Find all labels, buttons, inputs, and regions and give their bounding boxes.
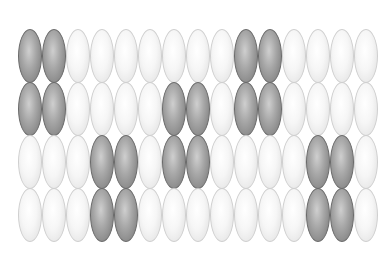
bead-cell xyxy=(306,188,330,242)
bead-cell xyxy=(330,135,354,189)
bead-cell xyxy=(42,82,66,136)
bead-cell xyxy=(234,135,258,189)
bead-cell xyxy=(210,188,234,242)
bead-cell xyxy=(210,135,234,189)
bead-cell xyxy=(114,188,138,242)
bead-cell xyxy=(354,135,378,189)
bead-cell xyxy=(90,188,114,242)
bead-cell xyxy=(258,82,282,136)
bead-cell xyxy=(90,82,114,136)
bead-cell xyxy=(210,29,234,83)
bead-cell xyxy=(186,135,210,189)
bead-cell xyxy=(90,29,114,83)
bead-cell xyxy=(162,135,186,189)
bead-cell xyxy=(282,29,306,83)
bead-cell xyxy=(306,82,330,136)
bead-cell xyxy=(186,188,210,242)
bead-cell xyxy=(42,188,66,242)
bead-cell xyxy=(18,29,42,83)
bead-pattern-grid xyxy=(18,29,378,243)
bead-cell xyxy=(114,82,138,136)
bead-cell xyxy=(42,29,66,83)
bead-cell xyxy=(138,188,162,242)
bead-cell xyxy=(186,82,210,136)
bead-cell xyxy=(306,29,330,83)
bead-cell xyxy=(138,82,162,136)
bead-cell xyxy=(330,29,354,83)
bead-cell xyxy=(66,29,90,83)
bead-cell xyxy=(354,82,378,136)
bead-cell xyxy=(258,188,282,242)
bead-cell xyxy=(258,29,282,83)
bead-cell xyxy=(282,188,306,242)
bead-cell xyxy=(258,135,282,189)
bead-cell xyxy=(138,29,162,83)
bead-cell xyxy=(90,135,114,189)
bead-cell xyxy=(234,82,258,136)
bead-cell xyxy=(66,82,90,136)
bead-cell xyxy=(210,82,234,136)
bead-cell xyxy=(18,82,42,136)
bead-cell xyxy=(354,29,378,83)
bead-cell xyxy=(306,135,330,189)
bead-cell xyxy=(282,82,306,136)
bead-cell xyxy=(162,82,186,136)
bead-cell xyxy=(138,135,162,189)
bead-cell xyxy=(234,188,258,242)
bead-cell xyxy=(162,29,186,83)
bead-cell xyxy=(18,135,42,189)
bead-cell xyxy=(282,135,306,189)
bead-cell xyxy=(162,188,186,242)
bead-cell xyxy=(42,135,66,189)
bead-cell xyxy=(186,29,210,83)
bead-cell xyxy=(66,188,90,242)
bead-cell xyxy=(114,29,138,83)
bead-cell xyxy=(330,188,354,242)
bead-cell xyxy=(354,188,378,242)
bead-cell xyxy=(18,188,42,242)
bead-cell xyxy=(66,135,90,189)
bead-cell xyxy=(330,82,354,136)
bead-cell xyxy=(114,135,138,189)
bead-cell xyxy=(234,29,258,83)
